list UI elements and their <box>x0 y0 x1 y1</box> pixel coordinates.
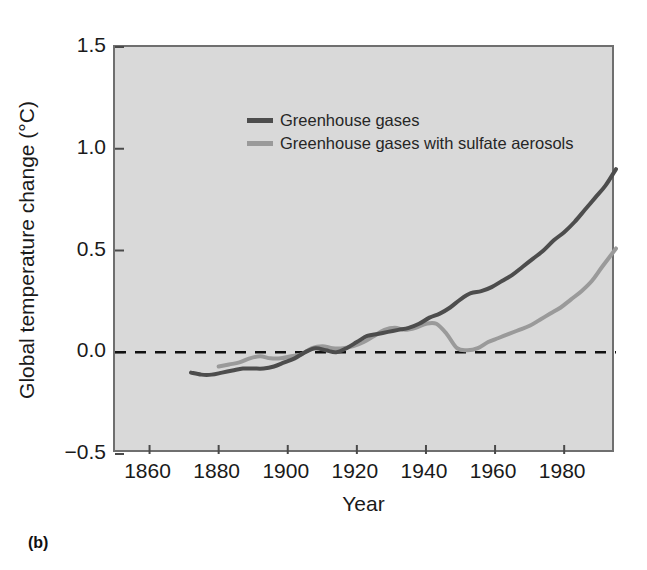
y-axis-tick-label: 0.0 <box>50 339 106 360</box>
legend-label: Greenhouse gases <box>280 111 419 130</box>
y-axis-title: Global temperature change (°C) <box>12 40 42 460</box>
chart-legend: Greenhouse gases Greenhouse gases with s… <box>247 109 547 155</box>
legend-item: Greenhouse gases <box>247 109 547 132</box>
legend-label: Greenhouse gases with sulfate aerosols <box>280 134 574 153</box>
figure-panel-b: Global temperature change (°C) −0.50.00.… <box>0 0 647 570</box>
x-axis-tick-label: 1980 <box>527 458 597 484</box>
x-axis-title: Year <box>113 492 614 516</box>
y-axis-tick-label: 1.5 <box>50 34 106 55</box>
y-axis-tick-label: 0.5 <box>50 238 106 259</box>
chart-canvas <box>113 45 618 456</box>
x-axis-tick-labels: 1860188019001920194019601980 <box>0 458 647 488</box>
panel-caption: (b) <box>28 534 48 552</box>
x-axis-tick-label: 1860 <box>113 458 183 484</box>
x-axis-tick-label: 1940 <box>389 458 459 484</box>
legend-line-swatch-greenhouse-gases <box>247 118 273 123</box>
legend-line-swatch-greenhouse-gases-with-sulfate-aerosols <box>247 141 273 146</box>
x-axis-tick-label: 1900 <box>251 458 321 484</box>
x-axis-tick-label: 1960 <box>458 458 528 484</box>
plot-area: Greenhouse gases Greenhouse gases with s… <box>113 45 614 452</box>
legend-item: Greenhouse gases with sulfate aerosols <box>247 132 547 155</box>
y-axis-tick-label: 1.0 <box>50 136 106 157</box>
x-axis-tick-label: 1880 <box>182 458 252 484</box>
x-axis-tick-label: 1920 <box>320 458 390 484</box>
